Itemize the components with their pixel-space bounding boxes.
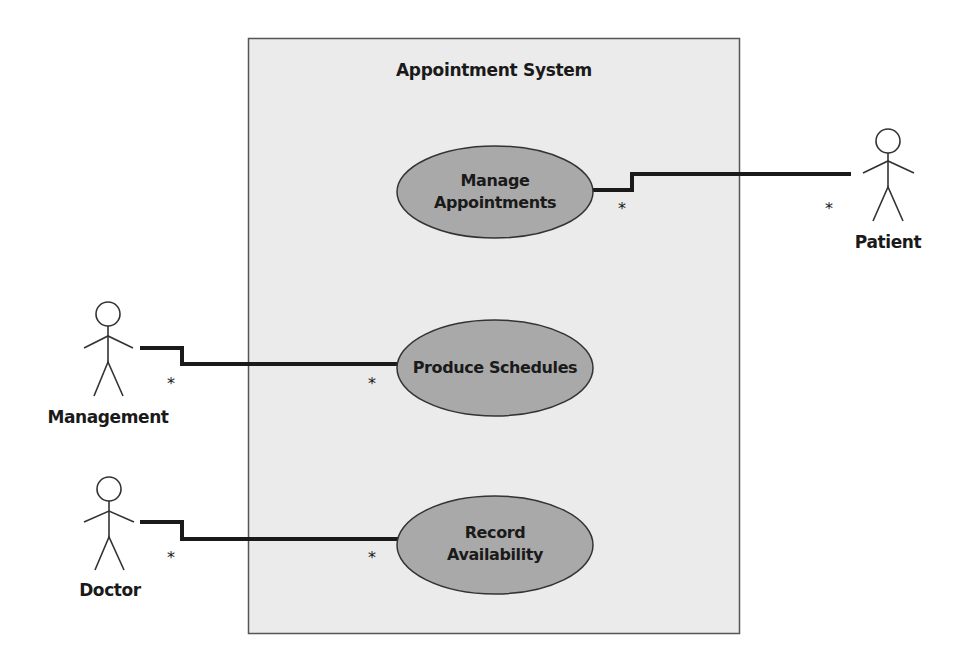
system-title: Appointment System xyxy=(248,62,740,79)
actor-patient-head xyxy=(876,129,900,153)
actor-label-doctor: Doctor xyxy=(60,582,160,599)
actor-patient-legs xyxy=(873,187,903,221)
multiplicity-record-availability-end: * xyxy=(368,550,376,566)
actor-label-management: Management xyxy=(38,409,178,426)
actor-management-figure[interactable] xyxy=(84,302,133,396)
use-case-label-line: Manage xyxy=(397,170,593,192)
use-case-label-manage-appointments: Manage Appointments xyxy=(397,170,593,214)
use-case-label-line: Availability xyxy=(397,544,593,566)
use-case-label-line: Produce Schedules xyxy=(397,357,593,379)
actor-doctor-figure[interactable] xyxy=(84,477,134,570)
actor-management-head xyxy=(96,302,120,326)
actor-patient-figure[interactable] xyxy=(863,129,914,221)
use-case-label-line: Record xyxy=(397,522,593,544)
use-case-label-record-availability: Record Availability xyxy=(397,522,593,566)
multiplicity-produce-schedules-end: * xyxy=(368,376,376,392)
actor-label-patient: Patient xyxy=(838,234,938,251)
multiplicity-manage-appointments-end: * xyxy=(618,201,626,217)
actor-doctor-legs xyxy=(95,537,124,570)
actor-management-legs xyxy=(94,362,123,396)
multiplicity-patient-end: * xyxy=(825,201,833,217)
use-case-label-produce-schedules: Produce Schedules xyxy=(397,357,593,379)
use-case-label-line: Appointments xyxy=(397,192,593,214)
actor-doctor-head xyxy=(97,477,121,501)
multiplicity-doctor-end: * xyxy=(167,550,175,566)
multiplicity-management-end: * xyxy=(167,376,175,392)
